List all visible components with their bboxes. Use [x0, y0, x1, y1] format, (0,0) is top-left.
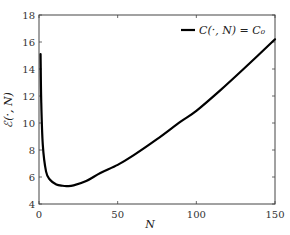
x-tick-label: 0	[36, 209, 42, 220]
x-tick-label: 50	[111, 209, 124, 220]
series-line	[41, 39, 275, 186]
x-axis-label: N	[144, 218, 155, 231]
x-tick-label: 100	[187, 209, 206, 220]
y-axis-label: ℰ(·, N)	[2, 92, 15, 128]
legend: C(·, N) = C₀	[181, 24, 266, 37]
y-tick-label: 4	[29, 199, 35, 210]
y-tick-label: 10	[22, 118, 35, 129]
y-tick-label: 8	[29, 145, 35, 156]
y-tick-label: 12	[22, 91, 35, 102]
x-axis-ticks: 050100150	[36, 15, 285, 220]
y-tick-label: 14	[22, 64, 35, 75]
plot-frame	[39, 15, 275, 204]
y-axis-ticks: 4681012141618	[22, 10, 275, 210]
x-tick-label: 150	[265, 209, 284, 220]
line-chart: 4681012141618 050100150 C(·, N) = C₀ N ℰ…	[0, 0, 290, 235]
y-tick-label: 16	[22, 37, 35, 48]
y-tick-label: 6	[29, 172, 35, 183]
legend-label: C(·, N) = C₀	[199, 24, 266, 37]
y-tick-label: 18	[22, 10, 35, 21]
